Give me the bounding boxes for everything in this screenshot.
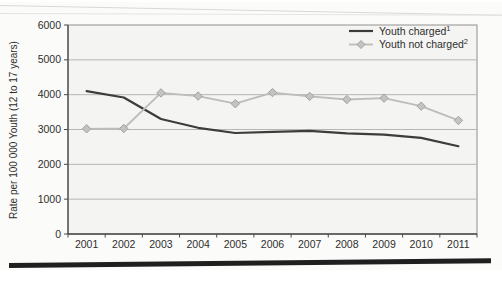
y-axis-title: Rate per 100 000 Youth (12 to 17 years) [8,41,19,219]
y-tick-label: 0 [55,228,61,240]
x-tick-label-2004: 2004 [186,238,210,250]
x-tick-label-2007: 2007 [298,238,322,250]
y-tick-label: 4000 [38,88,62,100]
x-tick-label-2005: 2005 [224,238,248,250]
x-tick-label-2003: 2003 [149,238,173,250]
plot-area: 0100020003000400050006000200120022003200… [38,19,477,251]
legend-label: Youth charged1 [379,24,451,37]
line-chart: 0100020003000400050006000200120022003200… [0,0,502,260]
x-tick-label-2011: 2011 [447,238,470,250]
y-tick-label: 3000 [38,123,62,135]
legend-label: Youth not charged2 [379,37,468,50]
x-tick-label-2008: 2008 [335,238,359,250]
y-tick-label: 6000 [38,19,62,31]
x-tick-label-2006: 2006 [261,238,285,250]
y-tick-label: 1000 [38,193,62,205]
y-tick-label: 5000 [38,53,62,65]
x-tick-label-2009: 2009 [372,238,396,250]
x-tick-label-2002: 2002 [112,238,136,250]
y-tick-label: 2000 [38,158,62,170]
x-tick-label-2001: 2001 [75,238,99,250]
x-tick-label-2010: 2010 [410,238,434,250]
